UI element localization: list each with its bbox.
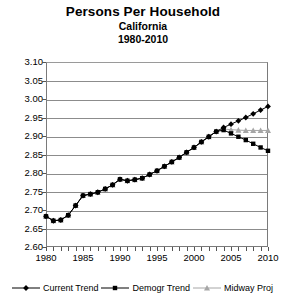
diamond-marker-icon (243, 115, 249, 121)
x-axis-tick-label: 1985 (63, 253, 103, 263)
y-axis-tick-label: 3.00 (5, 94, 43, 104)
series-line (46, 129, 268, 221)
y-axis-tick-mark (42, 173, 46, 174)
x-axis-tick-mark (135, 247, 136, 251)
x-axis-tick-mark (253, 247, 254, 251)
x-axis-tick-mark (164, 247, 165, 251)
y-axis-tick-mark (42, 210, 46, 211)
y-axis-tick-mark (42, 192, 46, 193)
legend-item-label: Midway Proj (222, 283, 275, 293)
series-line (46, 130, 268, 221)
legend-swatch (11, 283, 41, 293)
y-axis-tick-label: 2.65 (5, 224, 43, 234)
diamond-marker-icon (258, 107, 264, 113)
x-axis-tick-label: 1980 (26, 253, 66, 263)
x-axis-tick-mark (150, 247, 151, 251)
diamond-marker-icon (23, 285, 29, 291)
chart-legend: Current TrendDemogr TrendMidway Proj (0, 283, 286, 293)
x-axis-tick-mark (120, 247, 121, 251)
series-current-trend (43, 104, 271, 224)
y-axis-tick-label: 2.90 (5, 131, 43, 141)
series-demogr-trend (44, 128, 270, 223)
x-axis-tick-mark (201, 247, 202, 251)
x-axis-tick-mark (238, 247, 239, 251)
x-axis-tick-mark (246, 247, 247, 251)
x-axis-tick-label: 2000 (174, 253, 214, 263)
x-axis-tick-mark (179, 247, 180, 251)
x-axis-tick-mark (224, 247, 225, 251)
chart-title-block: Persons Per Household California 1980-20… (0, 4, 286, 46)
x-axis-tick-label: 2005 (211, 253, 251, 263)
y-axis-tick-mark (42, 81, 46, 82)
x-axis-tick-mark (268, 247, 269, 251)
square-marker-icon (236, 135, 240, 139)
y-axis-tick-label: 3.05 (5, 76, 43, 86)
legend-item-midway-proj[interactable]: Midway Proj (192, 283, 275, 293)
y-axis-tick-mark (42, 99, 46, 100)
x-axis-tick-mark (98, 247, 99, 251)
x-axis-tick-mark (157, 247, 158, 251)
x-axis-tick-mark (76, 247, 77, 251)
square-marker-icon (229, 131, 233, 135)
y-axis-tick-label: 2.70 (5, 205, 43, 215)
square-marker-icon (258, 145, 262, 149)
x-axis-tick-mark (53, 247, 54, 251)
x-axis-tick-mark (127, 247, 128, 251)
x-axis-tick-label: 1990 (100, 253, 140, 263)
square-marker-icon (251, 142, 255, 146)
page-title: Persons Per Household (0, 4, 286, 20)
x-axis-tick-mark (90, 247, 91, 251)
x-axis-tick-label: 2010 (248, 253, 286, 263)
y-axis-tick-mark (42, 136, 46, 137)
chart-subtitle-region: California (0, 20, 286, 33)
y-axis-tick-mark (42, 118, 46, 119)
legend-item-demogr-trend[interactable]: Demogr Trend (100, 283, 192, 293)
y-axis-tick-label: 2.60 (5, 242, 43, 252)
x-axis-tick-mark (261, 247, 262, 251)
legend-swatch (192, 283, 222, 293)
y-axis-tick-label: 2.80 (5, 168, 43, 178)
x-axis-tick-mark (105, 247, 106, 251)
diamond-marker-icon (265, 104, 271, 110)
x-axis-tick-mark (172, 247, 173, 251)
legend-swatch (100, 283, 130, 293)
y-axis-tick-mark (42, 62, 46, 63)
legend-item-current-trend[interactable]: Current Trend (11, 283, 101, 293)
series-line (46, 106, 268, 220)
chart-subtitle-period: 1980-2010 (0, 33, 286, 46)
square-marker-icon (244, 138, 248, 142)
diamond-marker-icon (250, 111, 256, 117)
square-marker-icon (113, 286, 117, 290)
x-axis-tick-label: 1995 (137, 253, 177, 263)
diamond-marker-icon (228, 121, 234, 127)
y-axis-tick-label: 2.95 (5, 113, 43, 123)
legend-item-label: Demogr Trend (130, 283, 192, 293)
x-axis-tick-mark (83, 247, 84, 251)
x-axis-tick-mark (61, 247, 62, 251)
legend-item-label: Current Trend (41, 283, 101, 293)
x-axis-tick-mark (68, 247, 69, 251)
series-midway-proj (43, 126, 271, 223)
x-axis-tick-mark (194, 247, 195, 251)
x-axis-tick-mark (209, 247, 210, 251)
y-axis-tick-mark (42, 229, 46, 230)
square-marker-icon (266, 149, 270, 153)
x-axis-tick-mark (113, 247, 114, 251)
y-axis-tick-label: 3.10 (5, 57, 43, 67)
y-axis-tick-label: 2.75 (5, 187, 43, 197)
series-layer (46, 62, 268, 247)
y-axis-tick-label: 2.85 (5, 150, 43, 160)
x-axis-tick-mark (187, 247, 188, 251)
x-axis-tick-mark (46, 247, 47, 251)
diamond-marker-icon (236, 118, 242, 124)
x-axis-tick-mark (231, 247, 232, 251)
y-axis-tick-mark (42, 155, 46, 156)
chart-container: Persons Per Household California 1980-20… (0, 0, 286, 305)
x-axis-tick-mark (142, 247, 143, 251)
x-axis-tick-mark (216, 247, 217, 251)
